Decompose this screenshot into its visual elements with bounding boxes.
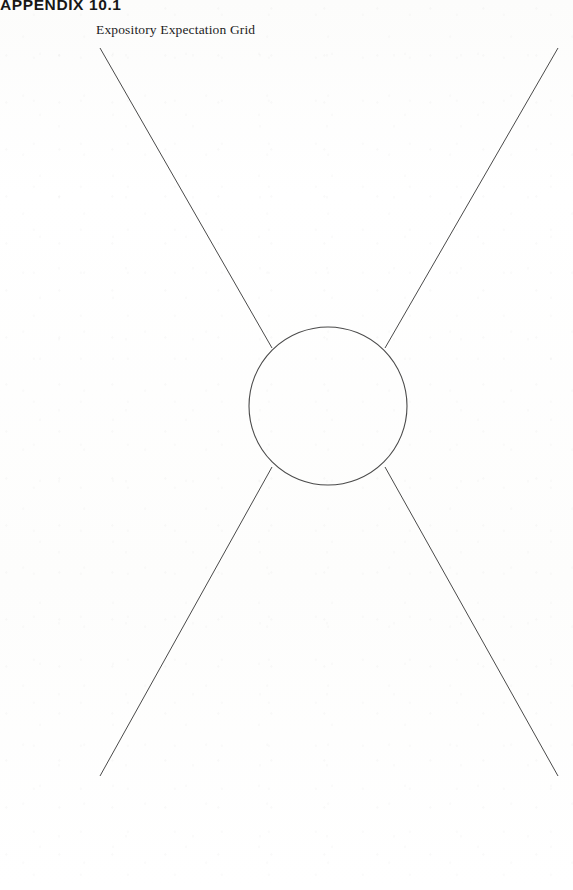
branch-top-left-slot[interactable]	[104, 52, 274, 342]
appendix-page: APPENDIX 10.1 Expository Expectation Gri…	[0, 0, 573, 890]
branch-bottom-right-slot[interactable]	[386, 470, 556, 770]
center-topic-slot[interactable]	[249, 327, 407, 485]
branch-top-right-slot[interactable]	[386, 52, 556, 342]
branch-bottom-left-slot[interactable]	[104, 470, 274, 770]
